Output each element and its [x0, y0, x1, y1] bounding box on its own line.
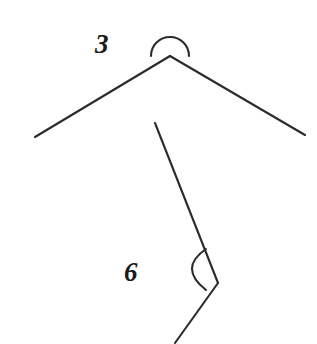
figure-background: [0, 0, 317, 344]
angle-diagram-figure: 3 6: [0, 0, 317, 344]
bottom-angle-label: 6: [124, 259, 138, 286]
top-angle-label: 3: [95, 31, 109, 58]
diagram-canvas: [0, 0, 317, 344]
